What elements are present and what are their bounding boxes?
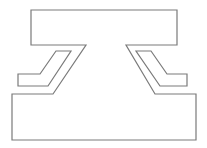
left-bracket-slot: [18, 51, 71, 86]
cross-section-drawing: [0, 0, 207, 148]
main-outline-shape: [12, 10, 196, 140]
right-bracket-slot: [136, 51, 187, 86]
diagram-canvas: [0, 0, 207, 148]
